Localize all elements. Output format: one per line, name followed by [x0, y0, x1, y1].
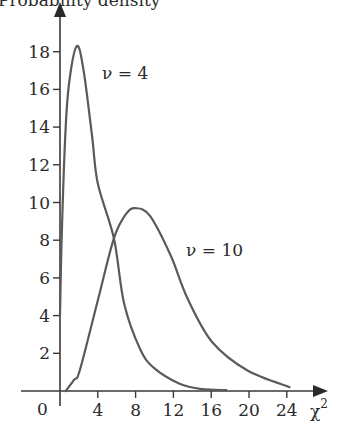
y-tick-label: 14	[28, 117, 50, 137]
y-tick-label: 16	[28, 79, 50, 99]
x-tick-label: 16	[200, 400, 222, 420]
x-axis-title: χ2	[310, 397, 328, 421]
curve-nu4	[60, 46, 226, 390]
y-tick-label: 18	[28, 42, 50, 62]
origin-label: 0	[37, 399, 48, 419]
y-tick-label: 10	[28, 193, 50, 213]
x-axis-title-sup: 2	[320, 397, 328, 411]
x-tick-label: 24	[276, 400, 298, 420]
y-axis-title: Probability density	[0, 0, 161, 10]
y-tick-label: 6	[39, 268, 50, 288]
x-tick-label: 12	[163, 400, 185, 420]
curve-nu10	[66, 208, 290, 391]
x-tick-label: 4	[92, 400, 103, 420]
series-label-nu4: ν = 4	[102, 63, 148, 83]
y-tick-label: 4	[39, 306, 50, 326]
x-axis-arrow-icon	[313, 385, 328, 397]
curves	[60, 46, 290, 391]
chi-square-density-chart: Probability density 24681012141618 48121…	[0, 0, 338, 425]
x-ticks: 4812162024	[92, 391, 297, 420]
y-ticks: 24681012141618	[28, 42, 60, 364]
y-tick-label: 2	[39, 343, 50, 363]
y-tick-label: 8	[39, 230, 50, 250]
x-tick-label: 20	[238, 400, 260, 420]
x-tick-label: 8	[130, 400, 141, 420]
y-tick-label: 12	[28, 155, 50, 175]
x-axis-title-base: χ	[310, 401, 320, 421]
series-label-nu10: ν = 10	[186, 240, 243, 260]
